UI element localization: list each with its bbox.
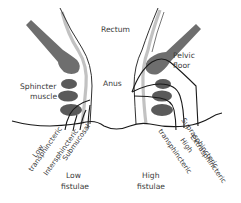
right-sphincter-block-3 <box>151 104 173 116</box>
anus-label: Anus <box>103 79 122 88</box>
low-fistulae-label-line1: Low <box>66 171 81 180</box>
right-sphincter-block-2 <box>152 91 172 102</box>
left-sphincter-block-1 <box>61 79 77 89</box>
sphincter-muscle-label-line1: Sphincter <box>20 82 57 91</box>
diagram-svg: Rectum Pelvic floor Sphincter muscle Anu… <box>0 0 241 203</box>
rectum-label: Rectum <box>101 25 130 34</box>
sphincter-muscle-label-line2: muscle <box>30 92 57 101</box>
pelvic-floor-label-line2: floor <box>173 61 191 70</box>
pelvic-floor-label-line1: Pelvic <box>173 51 195 60</box>
high-fistulae-label-line1: High <box>142 171 160 180</box>
left-pelvic-floor-muscle <box>26 20 80 74</box>
high-fistulae-label-line2: fistulae <box>137 182 165 191</box>
left-sphincter-block-3 <box>60 104 82 116</box>
anal-fistula-diagram: Rectum Pelvic floor Sphincter muscle Anu… <box>0 0 241 203</box>
low-fistulae-label-line2: fistulae <box>61 182 89 191</box>
left-sphincter-block-2 <box>58 91 78 102</box>
